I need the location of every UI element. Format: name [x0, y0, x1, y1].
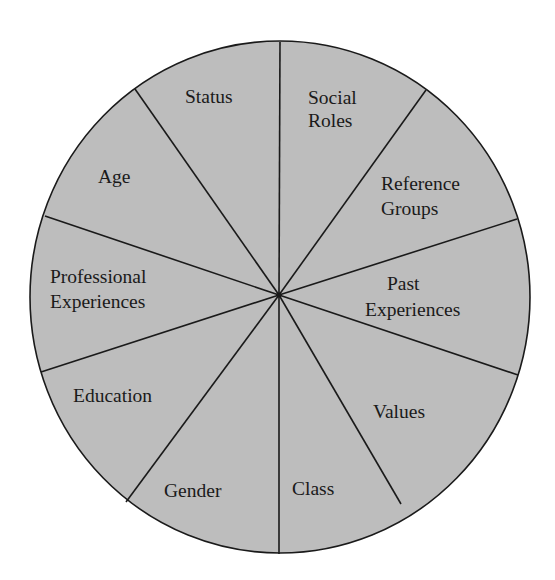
label-reference-groups-line1: Reference — [381, 173, 460, 194]
label-class: Class — [292, 478, 334, 499]
label-professional-experiences-line2: Experiences — [50, 291, 145, 312]
wheel-diagram: Status Social Roles Reference Groups Pas… — [0, 0, 555, 580]
label-education: Education — [73, 385, 152, 406]
label-past-experiences-line1: Past — [387, 273, 420, 294]
label-reference-groups-line2: Groups — [381, 198, 438, 219]
label-status: Status — [185, 86, 233, 107]
label-gender: Gender — [164, 480, 222, 501]
label-social-roles-line2: Roles — [308, 110, 352, 131]
divider-status-social — [279, 42, 280, 295]
label-values: Values — [373, 401, 425, 422]
label-professional-experiences-line1: Professional — [50, 266, 147, 287]
label-social-roles-line1: Social — [308, 87, 357, 108]
label-past-experiences-line2: Experiences — [365, 299, 460, 320]
center-dot — [277, 293, 282, 298]
label-age: Age — [98, 166, 131, 187]
